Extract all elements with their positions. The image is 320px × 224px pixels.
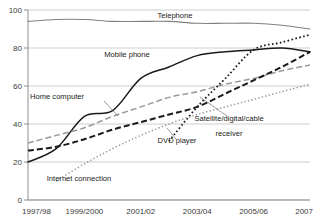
series-annotation-label: Telephone xyxy=(157,11,192,20)
y-axis-tick-label: 80 xyxy=(13,44,22,53)
line-chart: 0204060801001997/981999/20002001/022003/… xyxy=(0,0,320,224)
series-annotation-label: Mobile phone xyxy=(104,50,150,59)
y-axis-tick-label: 60 xyxy=(13,82,22,91)
series-annotation-label: Internet connection xyxy=(47,174,112,183)
chart-canvas: 0204060801001997/981999/20002001/022003/… xyxy=(0,0,320,224)
y-axis-tick-label: 0 xyxy=(18,196,23,205)
x-axis-tick-label: 2003/04 xyxy=(183,207,212,216)
x-axis-tick-label: 1997/98 xyxy=(22,207,51,216)
x-axis-tick-label: 2001/02 xyxy=(126,207,155,216)
series-annotation-label: DVD player xyxy=(158,136,197,145)
x-axis-tick-label: 1999/2000 xyxy=(65,207,103,216)
x-axis-tick-label: 2007 xyxy=(295,207,313,216)
series-line-telephone xyxy=(28,19,310,29)
series-line-internet-connection xyxy=(56,84,310,181)
y-axis-tick-label: 100 xyxy=(9,6,23,15)
series-annotation-label: Home computer xyxy=(30,92,84,101)
series-annotation-label: Satellite/digital/cable xyxy=(194,114,263,123)
y-axis-tick-label: 20 xyxy=(13,158,22,167)
y-axis-tick-label: 40 xyxy=(13,120,22,129)
series-annotation-label: receiver xyxy=(215,129,242,138)
x-axis-tick-label: 2005/06 xyxy=(239,207,268,216)
